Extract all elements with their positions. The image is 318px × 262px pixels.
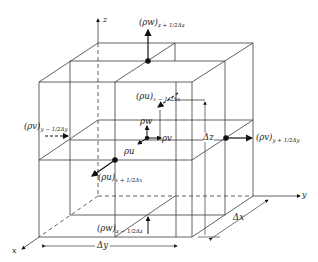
- center-u-label: ρu: [124, 147, 134, 156]
- dy-label: Δy: [95, 241, 110, 250]
- y-axis-label: y: [302, 191, 307, 199]
- dx-label: Δx: [233, 213, 244, 222]
- flux-top-label: (ρw)z + 1/2Δz: [139, 18, 185, 29]
- flux-back-label: (ρu)x − 1/2Δx: [136, 92, 180, 103]
- x-axis-hidden: [39, 196, 98, 237]
- x-axis: [22, 237, 39, 249]
- flux-right-label: (ρv)y + 1/2Δy: [256, 133, 300, 144]
- z-axis-label: z: [103, 16, 107, 24]
- center-w-label: ρw: [140, 117, 152, 126]
- flux-left-label: (ρv)y − 1/2Δy: [24, 122, 68, 133]
- center-v-label: ρv: [162, 134, 172, 143]
- x-axis-label: x: [12, 247, 17, 255]
- flux-bottom-label: (ρw)z − 1/2Δz: [97, 224, 143, 235]
- dz-label: Δz: [203, 133, 214, 142]
- flux-front-label: (ρu)x + 1/2Δx: [98, 173, 142, 184]
